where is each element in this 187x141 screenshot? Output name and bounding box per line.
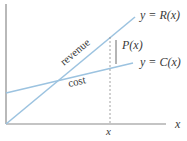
revenue-word-label: revenue — [58, 36, 92, 68]
profit-label: P(x) — [121, 38, 143, 52]
diagram-canvas: y = R(x) y = C(x) P(x) revenue cost x x — [0, 0, 187, 141]
revenue-line — [6, 17, 135, 124]
cost-curve-label: y = C(x) — [139, 55, 181, 69]
x-axis-label: x — [174, 117, 181, 131]
x-tick-label: x — [105, 125, 111, 137]
revenue-cost-diagram: y = R(x) y = C(x) P(x) revenue cost x x — [0, 0, 187, 141]
cost-word-label: cost — [67, 73, 87, 89]
revenue-curve-label: y = R(x) — [139, 8, 180, 22]
